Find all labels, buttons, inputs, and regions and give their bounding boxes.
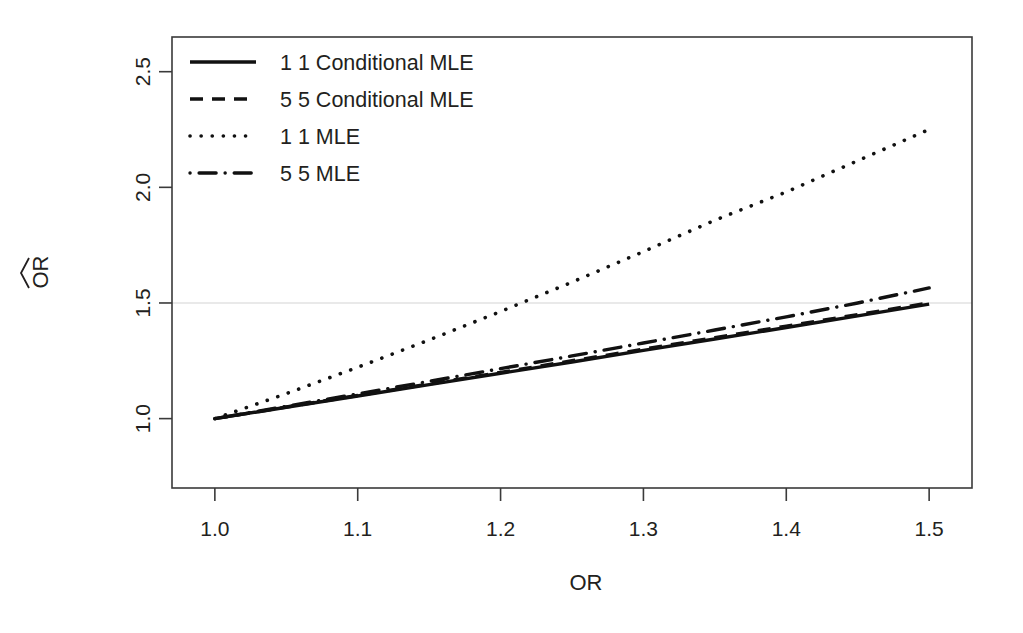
y-axis-title: OR (28, 256, 53, 289)
x-tick-label: 1.4 (772, 517, 802, 540)
y-tick-label-group: 1.0 (131, 404, 154, 433)
x-tick-label: 1.2 (486, 517, 515, 540)
legend-label: 5 5 Conditional MLE (280, 88, 474, 112)
y-tick-label: 2.0 (131, 173, 154, 202)
x-tick-label: 1.5 (915, 517, 944, 540)
y-axis-tick-labels: 1.01.52.02.5 (131, 57, 154, 433)
legend-label: 5 5 MLE (280, 162, 360, 186)
legend-label: 1 1 Conditional MLE (280, 51, 474, 75)
y-axis-title-group: OR (21, 256, 53, 289)
y-tick-label: 1.5 (131, 288, 154, 317)
chart-figure: 1.01.11.21.31.41.5 1.01.52.02.5 OR OR 1 … (0, 0, 1023, 633)
x-axis-ticks (215, 488, 929, 501)
y-tick-label-group: 2.0 (131, 173, 154, 202)
x-tick-label: 1.3 (629, 517, 658, 540)
chart-canvas: 1.01.11.21.31.41.5 1.01.52.02.5 OR OR 1 … (0, 0, 1023, 633)
series-line-dashdot (215, 288, 929, 419)
y-tick-label-group: 1.5 (131, 288, 154, 317)
x-axis-tick-labels: 1.01.11.21.31.41.5 (200, 517, 943, 540)
x-tick-label: 1.0 (200, 517, 229, 540)
y-tick-label-group: 2.5 (131, 57, 154, 86)
legend-label: 1 1 MLE (280, 125, 360, 149)
y-axis-ticks (159, 72, 172, 419)
y-tick-label: 1.0 (131, 404, 154, 433)
chart-legend: 1 1 Conditional MLE5 5 Conditional MLE1 … (190, 51, 474, 186)
y-tick-label: 2.5 (131, 57, 154, 86)
x-axis-title: OR (570, 570, 603, 595)
x-tick-label: 1.1 (343, 517, 372, 540)
